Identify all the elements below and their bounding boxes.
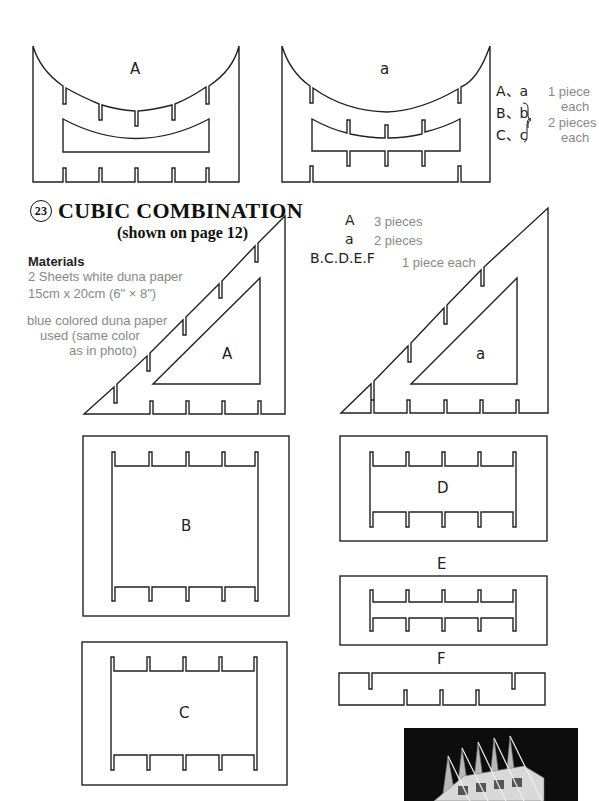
materials-note-1: blue colored duna paper — [27, 313, 167, 329]
materials-note-2: used (same color — [40, 328, 140, 344]
section-subtitle: (shown on page 12) — [117, 224, 248, 242]
lattice-image — [404, 728, 578, 801]
legend-count-1-each: each — [561, 99, 589, 114]
label-rect-C: C — [179, 704, 189, 722]
legend-row-Bb: B、b — [496, 102, 529, 122]
assembled-model-photo — [404, 728, 578, 801]
count-key-BCDEF: B.C.D.E.F — [310, 250, 375, 266]
materials-note-3: as in photo) — [69, 343, 137, 359]
count-value-A: 3 pieces — [374, 214, 422, 229]
legend-row-Aa: A、a — [496, 80, 528, 100]
template-rect-F — [339, 673, 545, 705]
legend-row-Cc: C、c — [496, 124, 527, 144]
label-shape-A-top: A — [130, 60, 140, 78]
materials-line-2: 15cm x 20cm (6" × 8") — [28, 286, 156, 302]
label-rect-F: F — [437, 650, 446, 668]
count-value-BCDEF: 1 piece each — [402, 255, 476, 270]
label-triangle-a: a — [476, 345, 485, 363]
materials-heading: Materials — [28, 254, 84, 269]
section-title: 23CUBIC COMBINATION — [30, 198, 303, 224]
label-shape-a-top: a — [380, 60, 389, 78]
legend-count-2-each: each — [561, 130, 589, 145]
count-value-a: 2 pieces — [374, 233, 422, 248]
template-triangle-a — [341, 208, 548, 413]
materials-line-1: 2 Sheets white duna paper — [28, 269, 183, 285]
legend-count-1: 1 piece — [548, 84, 590, 99]
legend-count-2: 2 pieces — [548, 115, 596, 130]
count-key-a: a — [345, 231, 354, 247]
label-rect-B: B — [181, 517, 191, 535]
label-triangle-A: A — [222, 345, 232, 363]
label-rect-D: D — [437, 479, 449, 497]
section-number: 23 — [30, 200, 52, 222]
section-title-text: CUBIC COMBINATION — [58, 198, 303, 223]
count-key-A: A — [345, 212, 355, 228]
template-rect-E — [340, 576, 547, 645]
label-rect-E: E — [437, 555, 446, 573]
